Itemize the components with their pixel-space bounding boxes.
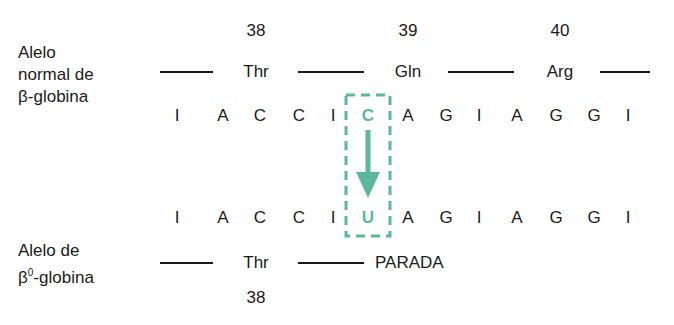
nucleotide: A (511, 208, 522, 228)
label-suffix: -globina (33, 268, 94, 287)
amino-acid-thr: Thr (243, 253, 269, 273)
nucleotide: G (549, 208, 562, 228)
codon-number-38: 38 (247, 288, 266, 308)
stop-codon-label: PARADA (375, 253, 444, 273)
nucleotide: A (217, 208, 228, 228)
backbone-line (160, 262, 213, 264)
codon-separator: I (626, 208, 631, 228)
nucleotide: G (587, 208, 600, 228)
codon-separator: I (477, 208, 482, 228)
codon-separator: I (175, 208, 180, 228)
label-line: β0-globina (18, 262, 94, 289)
label-line: Alelo de (18, 240, 94, 262)
beta-symbol: β (18, 268, 28, 287)
nucleotide: C (293, 208, 305, 228)
backbone-line (298, 262, 364, 264)
mutant-allele-label: Alelo de β0-globina (18, 240, 94, 289)
nucleotide: A (402, 208, 413, 228)
mutation-highlight (0, 0, 674, 325)
nucleotide: G (439, 208, 452, 228)
mutation-arrow-icon (356, 172, 380, 198)
mutated-nucleotide-new: U (362, 208, 374, 228)
nucleotide: C (254, 208, 266, 228)
codon-separator: I (331, 208, 336, 228)
